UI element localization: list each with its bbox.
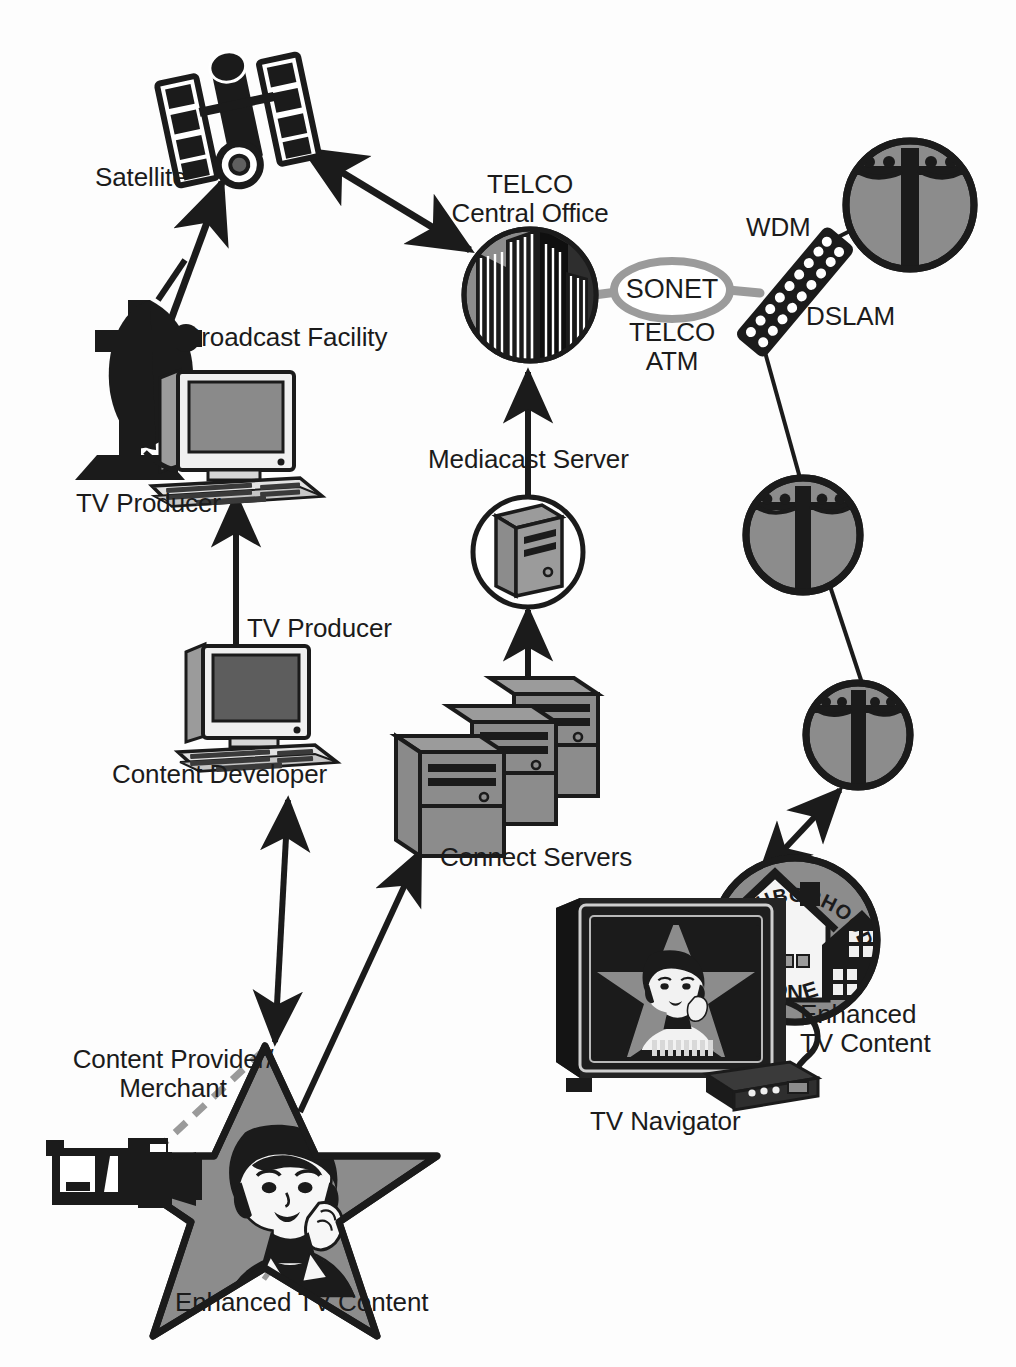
tv-producer-workstation-icon	[145, 370, 322, 506]
label-dslam: DSLAM	[806, 302, 895, 331]
label-mediacast-server: Mediacast Server	[428, 445, 629, 474]
label-telco-central-office: TELCOCentral Office	[420, 170, 640, 228]
diagram-canvas: NEIGHBORHOOD ONE	[0, 0, 1016, 1367]
label-content-provider-merchant: Content Provider/Merchant	[48, 1045, 298, 1103]
label-satellite: Satellite	[95, 163, 187, 192]
mediacast-server-icon	[473, 497, 583, 607]
label-content-developer: Content Developer	[112, 760, 327, 789]
edge-dslam-to-pole-2	[763, 345, 800, 478]
edge-pole-2-to-pole-3	[828, 580, 862, 683]
label-sonet: SONET	[612, 274, 732, 304]
camcorder-icon	[46, 1138, 202, 1208]
label-enhanced-tv-content-right: EnhancedTV Content	[800, 1000, 1000, 1058]
telephone-pole-icon	[846, 141, 974, 276]
telephone-pole-icon	[806, 683, 910, 794]
edge-star-to-connect-servers	[300, 852, 420, 1112]
telephone-pole-icon	[746, 478, 860, 598]
label-enhanced-tv-content-bottom: Enhanced TV Content	[175, 1288, 428, 1317]
telco-central-office-icon	[464, 228, 596, 361]
label-broadcast-facility: Broadcast Facility	[184, 323, 387, 352]
connect-servers-icon	[396, 678, 598, 856]
tv-navigator-icon	[556, 898, 786, 1092]
label-wdm: WDM	[746, 213, 811, 242]
label-connect-servers: Connect Servers	[440, 843, 632, 872]
label-tv-producer-top: TV Producer	[76, 489, 221, 518]
label-tv-navigator: TV Navigator	[590, 1107, 741, 1136]
edge-star-to-content-developer	[275, 800, 288, 1042]
label-tv-producer-mid: TV Producer	[247, 614, 392, 643]
content-developer-workstation-icon	[178, 644, 337, 772]
label-telco-atm: TELCOATM	[604, 318, 740, 376]
